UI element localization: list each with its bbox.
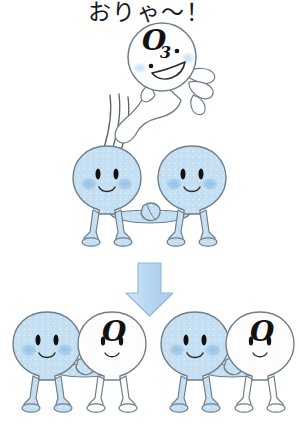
ozone-left-cheek [133,63,147,74]
ozone-label-subscript: 3 [160,43,171,62]
ozone-right-eye [175,49,180,54]
ozone-left-eye [149,64,154,69]
product-left-pair-label: O [102,315,127,348]
illustration-canvas: おりゃ〜！ [0,0,299,442]
product-right-pair-label: O [250,315,275,348]
caption-text: おりゃ〜！ [88,0,211,25]
